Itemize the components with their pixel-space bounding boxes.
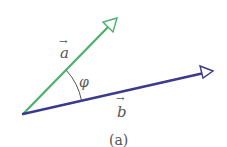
- label-b: b →: [116, 93, 127, 121]
- vector-b-arrowhead-icon: [200, 66, 213, 78]
- label-a: a →: [59, 36, 69, 62]
- vector-diagram: a → φ b → (a): [0, 0, 227, 147]
- label-b-arrow-icon: →: [116, 93, 125, 104]
- label-b-text: b: [117, 103, 127, 121]
- label-a-arrow-icon: →: [59, 36, 68, 47]
- angle-label-phi: φ: [79, 74, 89, 90]
- vector-a: [23, 18, 117, 114]
- figure-caption: (a): [109, 132, 128, 147]
